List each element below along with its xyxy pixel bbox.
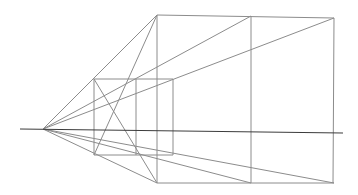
diagonal-line	[94, 15, 157, 155]
orthogonal-line	[43, 129, 157, 183]
large-rect-top-edge	[157, 15, 334, 18]
orthogonal-line	[43, 129, 251, 183]
orthogonal-line	[43, 16, 251, 129]
large-rect-right-edge	[333, 18, 334, 183]
orthogonal-line	[43, 18, 334, 129]
orthogonal-line	[43, 15, 157, 129]
horizon-line	[20, 129, 343, 133]
orthogonal-line	[43, 129, 334, 183]
perspective-diagram	[0, 0, 358, 195]
